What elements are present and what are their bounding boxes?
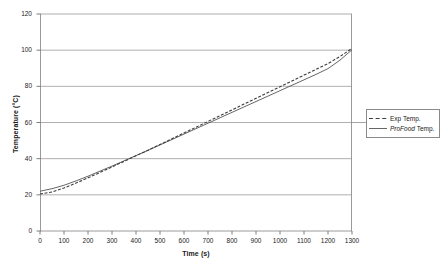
legend-swatch-solid-line-icon (369, 125, 387, 132)
legend-item-exp-temp: Exp Temp. (369, 114, 436, 123)
y-tick-label-60: 60 (0, 119, 32, 127)
x-axis-ticks (40, 231, 352, 235)
x-axis-title: Time (s) (40, 250, 352, 257)
legend-item-profood-temp: ProFood Temp. (369, 124, 436, 133)
y-tick-label-80: 80 (0, 82, 32, 90)
chart-legend: Exp Temp. ProFood Temp. (366, 109, 440, 138)
y-axis-ticks (37, 14, 41, 231)
y-tick-label-100: 100 (0, 46, 32, 54)
legend-label-profood-plain: Temp. (415, 125, 434, 132)
legend-label-profood-temp: ProFood Temp. (390, 125, 434, 133)
legend-label-exp-temp: Exp Temp. (390, 115, 421, 123)
y-tick-label-120: 120 (0, 10, 32, 18)
y-tick-label-0: 0 (0, 227, 32, 235)
y-tick-label-20: 20 (0, 191, 32, 199)
legend-swatch-dashed-line-icon (369, 115, 387, 122)
legend-label-profood-italic: ProFood (390, 125, 415, 132)
y-tick-label-40: 40 (0, 155, 32, 163)
temperature-vs-time-chart: Temperature (°C) (0, 0, 447, 272)
x-tick-label-1300: 1300 (332, 237, 372, 245)
